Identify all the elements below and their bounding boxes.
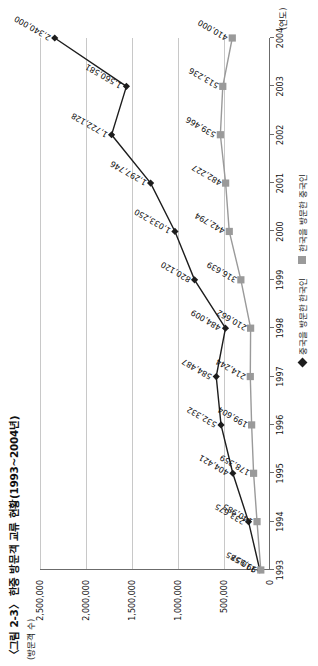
data-point-marker xyxy=(247,325,254,332)
x-tick-label: 1998 xyxy=(276,318,285,338)
y-axis-tick-labels: 0500,0001,000,0001,500,0002,000,0002,500… xyxy=(40,574,270,666)
y-tick-label: 2,500,000 xyxy=(36,580,45,621)
data-point-marker xyxy=(257,566,264,573)
diamond-marker-icon xyxy=(297,358,307,368)
data-point-marker xyxy=(222,179,229,186)
x-tick-label: 1995 xyxy=(276,463,285,483)
data-point-marker xyxy=(250,470,257,477)
y-tick-label: 500,000 xyxy=(220,580,229,613)
x-tick-label: 1994 xyxy=(276,511,285,531)
square-marker-icon xyxy=(298,256,306,264)
y-axis-unit-label: (방문객 수) xyxy=(24,619,36,660)
figure-title: 〈그림 2-3〉 한중 방문객 교류 현황(1993~2004년) xyxy=(6,416,21,660)
data-point-marker xyxy=(217,421,224,428)
x-tick-label: 2003 xyxy=(276,76,285,96)
x-tick-label: 1993 xyxy=(276,560,285,580)
chart-figure: 〈그림 2-3〉 한중 방문객 교류 현황(1993~2004년) (방문객 수… xyxy=(0,0,318,666)
x-tick-label: 2002 xyxy=(276,125,285,145)
x-tick-label: 2001 xyxy=(276,173,285,193)
chart-legend: 중국을 방문한 한국인 한국을 방문한 중국인 xyxy=(296,174,308,366)
y-tick-label: 1,500,000 xyxy=(128,580,137,621)
data-point-marker xyxy=(253,518,260,525)
y-tick-label: 2,000,000 xyxy=(82,580,91,621)
data-point-marker xyxy=(229,34,236,41)
data-point-marker xyxy=(171,228,178,235)
rotated-figure-wrapper: 〈그림 2-3〉 한중 방문객 교류 현황(1993~2004년) (방문객 수… xyxy=(0,0,318,666)
legend-label-0: 중국을 방문한 한국인 xyxy=(296,278,308,355)
y-tick-label: 0 xyxy=(266,580,275,585)
data-point-marker xyxy=(222,325,229,332)
data-point-marker xyxy=(248,421,255,428)
data-point-marker xyxy=(213,373,220,380)
legend-item-korean-visitors-to-china: 중국을 방문한 한국인 xyxy=(296,278,308,366)
data-point-marker xyxy=(217,131,224,138)
data-point-marker xyxy=(226,228,233,235)
data-point-marker xyxy=(237,276,244,283)
legend-label-1: 한국을 방문한 중국인 xyxy=(296,174,308,251)
series-line-1 xyxy=(220,38,260,570)
x-tick-label: 2004 xyxy=(276,28,285,48)
legend-item-chinese-visitors-to-korea: 한국을 방문한 중국인 xyxy=(296,174,308,263)
x-tick-label: 1996 xyxy=(276,415,285,435)
y-tick-label: 1,000,000 xyxy=(174,580,183,621)
x-tick-label: 1999 xyxy=(276,270,285,290)
plot-area: 110,585233,675404,421532,332584,487484,0… xyxy=(40,38,270,570)
data-point-marker xyxy=(219,83,226,90)
x-tick-label: 1997 xyxy=(276,366,285,386)
data-point-marker xyxy=(247,373,254,380)
x-axis-unit-label: (연도) xyxy=(276,7,288,30)
data-point-label: 2,340,000 xyxy=(12,14,52,42)
data-point-marker xyxy=(191,276,198,283)
x-tick-label: 2000 xyxy=(276,221,285,241)
x-axis-tick-labels: 1993199419951996199719981999200020012002… xyxy=(274,38,290,570)
